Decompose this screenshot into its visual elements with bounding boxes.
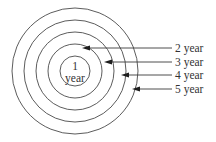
callout-2-year: 2 year: [82, 42, 204, 55]
center-label: 1 year: [65, 60, 85, 85]
center-label-unit: year: [65, 72, 85, 85]
arrow-left-icon: [104, 59, 112, 64]
callouts-group: 2 year3 year4 year5 year: [82, 42, 204, 96]
callout-label: 5 year: [175, 83, 204, 96]
center-label-number: 1: [72, 60, 78, 72]
callout-label: 3 year: [175, 56, 204, 69]
tree-rings-diagram: 1 year 2 year3 year4 year5 year: [0, 0, 216, 142]
callout-5-year: 5 year: [132, 83, 204, 96]
callout-4-year: 4 year: [121, 69, 204, 82]
callout-label: 4 year: [175, 69, 204, 82]
callout-label: 2 year: [175, 42, 204, 55]
arrow-left-icon: [121, 72, 129, 77]
callout-3-year: 3 year: [104, 56, 204, 69]
